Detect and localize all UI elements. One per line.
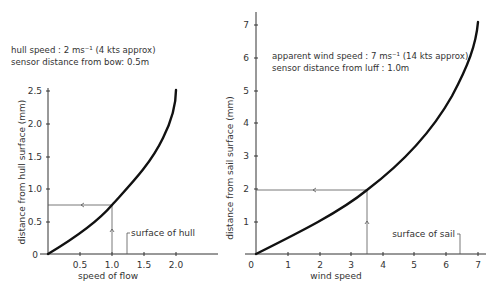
hull-ytick-label: 2.5 <box>28 86 42 96</box>
sail-xtick-label: 6 <box>443 260 449 270</box>
hull-note-speed: hull speed : 2 ms⁻¹ (4 kts approx) <box>11 45 156 55</box>
hull-ytick-label: 1.5 <box>28 152 42 162</box>
sail-xtick-label: 2 <box>317 260 323 270</box>
figure: hull speed : 2 ms⁻¹ (4 kts approx) senso… <box>0 0 504 292</box>
sail-y-axis-label: distance from sail surface (mm) <box>225 96 235 240</box>
sail-xtick-label: 3 <box>348 260 354 270</box>
sail-ytick-label: 4 <box>243 118 249 128</box>
hull-ytick-label: 0 <box>32 250 38 260</box>
hull-x-ticks: 0.5 1.0 1.5 2.0 <box>73 252 184 270</box>
hull-ytick-label: 1.0 <box>28 184 43 194</box>
sail-xtick-label: 1 <box>285 260 291 270</box>
sail-xtick-label: 4 <box>380 260 386 270</box>
hull-chart: hull speed : 2 ms⁻¹ (4 kts approx) senso… <box>11 45 218 281</box>
sail-ytick-label: 7 <box>243 20 249 30</box>
hull-y-axis-label: distance from hull surface (mm) <box>17 100 27 245</box>
sail-x-ticks: 0 1 2 3 4 5 6 7 <box>248 252 481 270</box>
sail-xtick-label: 5 <box>411 260 417 270</box>
sail-surface-marker <box>457 234 460 254</box>
hull-note-sensor: sensor distance from bow: 0.5m <box>11 57 149 67</box>
hull-surface-label: surface of hull <box>131 228 195 238</box>
sail-chart: apparent wind speed : 7 ms⁻¹ (14 kts app… <box>225 12 486 281</box>
hull-xtick-label: 2.0 <box>169 260 184 270</box>
hull-xtick-label: 1.5 <box>137 260 151 270</box>
sail-ytick-label: 2 <box>243 184 249 194</box>
sail-ytick-label: 6 <box>243 53 249 63</box>
hull-ytick-label: 2.0 <box>28 119 43 129</box>
hull-surface-marker <box>127 233 130 254</box>
sail-note-speed: apparent wind speed : 7 ms⁻¹ (14 kts app… <box>272 51 468 61</box>
hull-xtick-label: 1.0 <box>105 260 120 270</box>
sail-ytick-label: 5 <box>243 86 249 96</box>
sail-note-sensor: sensor distance from luff : 1.0m <box>272 63 409 73</box>
sail-ytick-label: 1 <box>243 217 249 227</box>
hull-y-ticks: 0 0.5 1.0 1.5 2.0 2.5 <box>28 86 50 260</box>
sail-surface-label: surface of sail <box>392 229 455 239</box>
sail-x-axis-label: wind speed <box>310 271 361 281</box>
hull-ytick-label: 0.5 <box>28 217 42 227</box>
hull-x-axis-label: speed of flow <box>78 271 138 281</box>
hull-xtick-label: 0.5 <box>73 260 87 270</box>
sail-xtick-label: 0 <box>248 260 254 270</box>
sail-ytick-label: 3 <box>243 151 249 161</box>
sail-xtick-label: 7 <box>475 260 481 270</box>
